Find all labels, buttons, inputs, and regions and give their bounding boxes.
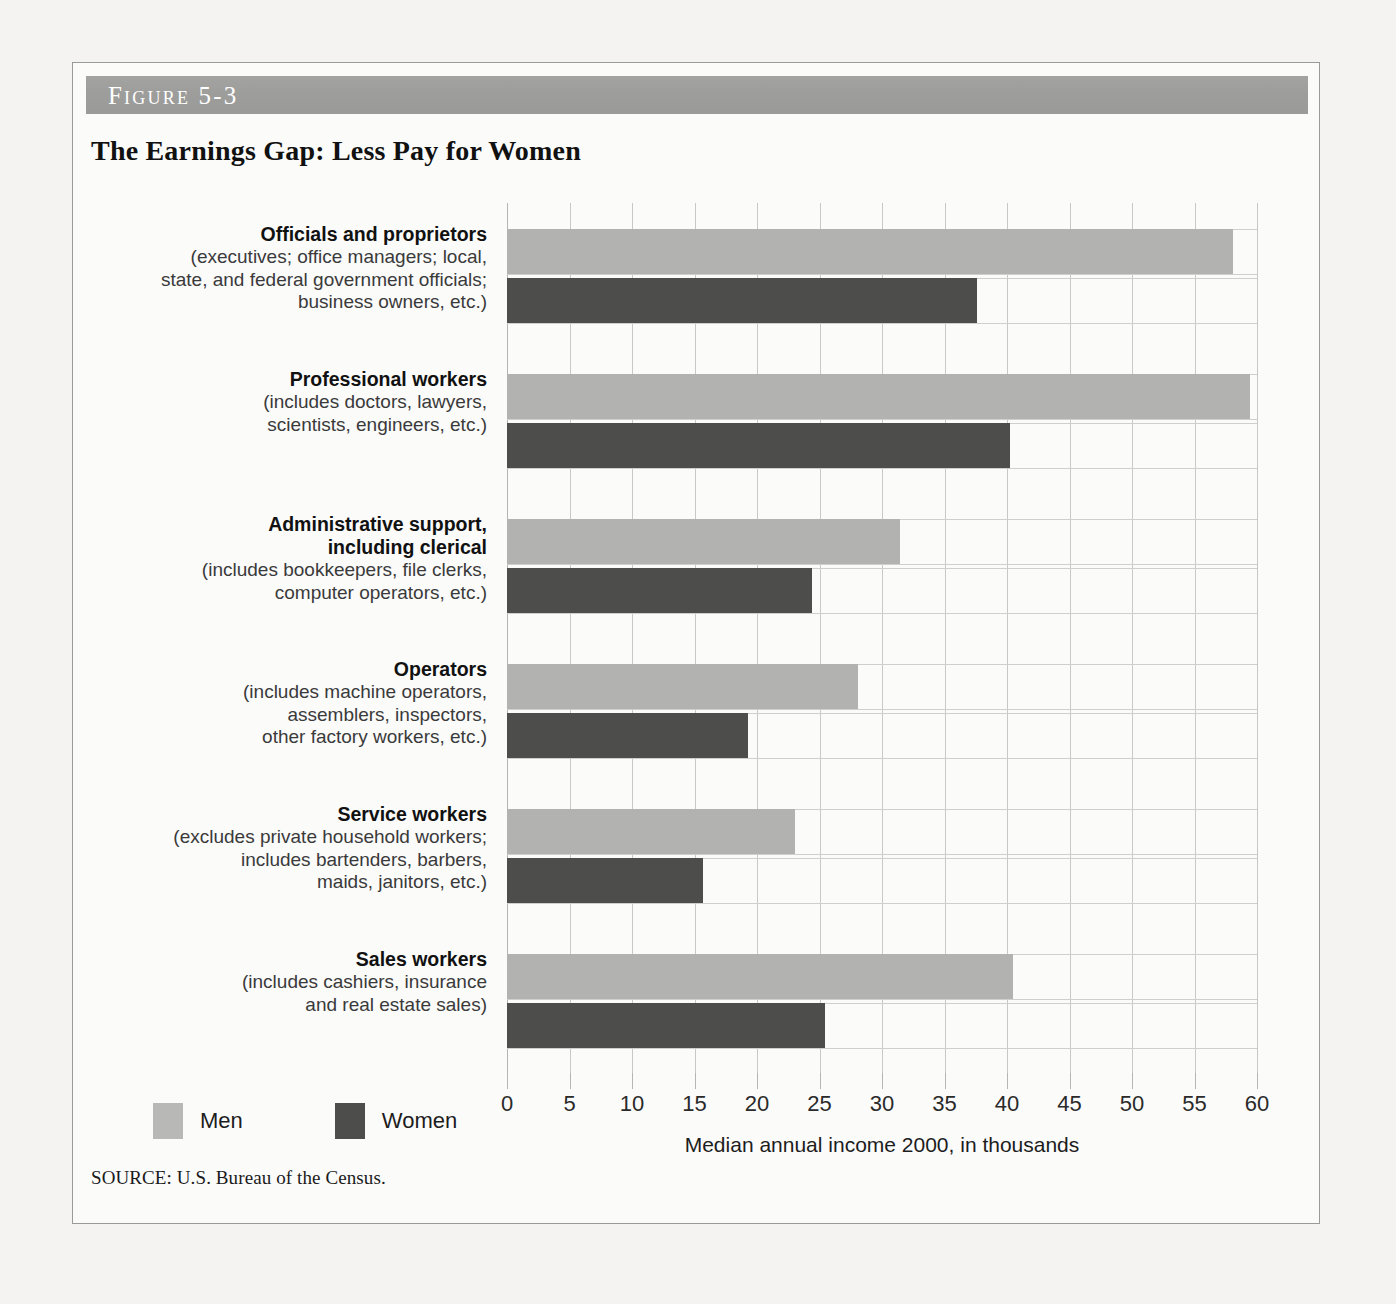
category-description: (includes doctors, lawyers, scientists, … [67, 391, 487, 437]
bar-women [507, 568, 812, 613]
axis-tick [1007, 1073, 1008, 1089]
axis-tick-label: 40 [985, 1091, 1029, 1117]
category-label: Service workers(excludes private househo… [67, 803, 487, 895]
gridline-vertical [1195, 203, 1196, 1073]
gridline-horizontal [507, 1048, 1257, 1049]
axis-tick [1070, 1073, 1071, 1089]
bar-women [507, 423, 1010, 468]
source-note: SOURCE: U.S. Bureau of the Census. [91, 1167, 386, 1189]
category-name: Service workers [67, 803, 487, 826]
gridline-vertical [945, 203, 946, 1073]
bar-men [507, 519, 900, 564]
axis-tick [1132, 1073, 1133, 1089]
axis-tick-label: 35 [923, 1091, 967, 1117]
axis-tick-label: 50 [1110, 1091, 1154, 1117]
legend-swatch-men-icon [153, 1103, 183, 1139]
bar-men [507, 809, 795, 854]
category-name: Administrative support, including cleric… [67, 513, 487, 560]
axis-tick-label: 30 [860, 1091, 904, 1117]
gridline-horizontal [507, 564, 1257, 565]
category-label: Officials and proprietors(executives; of… [67, 223, 487, 315]
axis-tick [882, 1073, 883, 1089]
axis-tick [695, 1073, 696, 1089]
gridline-vertical [1132, 203, 1133, 1073]
axis-tick [820, 1073, 821, 1089]
axis-tick-label: 55 [1173, 1091, 1217, 1117]
category-description: (excludes private household workers; inc… [67, 826, 487, 894]
gridline-vertical [1257, 203, 1258, 1073]
category-name: Operators [67, 658, 487, 681]
axis-tick [507, 1073, 508, 1089]
axis-tick-label: 60 [1235, 1091, 1279, 1117]
gridline-horizontal [507, 274, 1257, 275]
gridline-horizontal [507, 323, 1257, 324]
bar-women [507, 1003, 825, 1048]
bar-women [507, 713, 748, 758]
axis-tick-label: 20 [735, 1091, 779, 1117]
axis-tick [632, 1073, 633, 1089]
axis-tick [570, 1073, 571, 1089]
legend-swatch-women-icon [335, 1103, 365, 1139]
bar-men [507, 374, 1250, 419]
axis-tick-label: 15 [673, 1091, 717, 1117]
axis-tick-label: 5 [548, 1091, 592, 1117]
legend: Men Women [153, 1103, 527, 1139]
gridline-horizontal [507, 758, 1257, 759]
legend-label-men: Men [200, 1108, 243, 1134]
category-label: Sales workers(includes cashiers, insuran… [67, 948, 487, 1017]
plot-area: 051015202530354045505560Median annual in… [507, 203, 1257, 1073]
legend-item-men: Men [153, 1103, 243, 1139]
category-name: Professional workers [67, 368, 487, 391]
bar-women [507, 858, 703, 903]
axis-tick-label: 25 [798, 1091, 842, 1117]
axis-tick-label: 10 [610, 1091, 654, 1117]
gridline-vertical [695, 203, 696, 1073]
gridline-vertical [820, 203, 821, 1073]
gridline-vertical [632, 203, 633, 1073]
axis-zero-line [507, 203, 508, 1073]
gridline-horizontal [507, 468, 1257, 469]
axis-tick [1257, 1073, 1258, 1089]
category-description: (includes machine operators, assemblers,… [67, 681, 487, 749]
figure-container: Figure 5-3 The Earnings Gap: Less Pay fo… [72, 62, 1320, 1224]
gridline-vertical [1007, 203, 1008, 1073]
bar-women [507, 278, 977, 323]
gridline-horizontal [507, 999, 1257, 1000]
gridline-horizontal [507, 613, 1257, 614]
gridline-vertical [570, 203, 571, 1073]
category-description: (executives; office managers; local, sta… [67, 246, 487, 314]
category-description: (includes cashiers, insurance and real e… [67, 971, 487, 1017]
bar-men [507, 229, 1233, 274]
category-name: Officials and proprietors [67, 223, 487, 246]
legend-item-women: Women [335, 1103, 457, 1139]
category-label: Professional workers(includes doctors, l… [67, 368, 487, 437]
gridline-vertical [1070, 203, 1071, 1073]
category-description: (includes bookkeepers, file clerks, comp… [67, 559, 487, 605]
gridline-horizontal [507, 903, 1257, 904]
x-axis-title: Median annual income 2000, in thousands [507, 1133, 1257, 1157]
gridline-horizontal [507, 709, 1257, 710]
category-label: Administrative support, including cleric… [67, 513, 487, 605]
gridline-vertical [882, 203, 883, 1073]
axis-tick [945, 1073, 946, 1089]
gridline-horizontal [507, 854, 1257, 855]
page-background: Figure 5-3 The Earnings Gap: Less Pay fo… [0, 0, 1396, 1304]
plot-wrapper: 051015202530354045505560Median annual in… [73, 63, 1321, 1225]
axis-tick-label: 45 [1048, 1091, 1092, 1117]
bar-men [507, 664, 858, 709]
category-label: Operators(includes machine operators, as… [67, 658, 487, 750]
gridline-vertical [757, 203, 758, 1073]
legend-label-women: Women [382, 1108, 457, 1134]
category-name: Sales workers [67, 948, 487, 971]
bar-men [507, 954, 1013, 999]
axis-tick [1195, 1073, 1196, 1089]
gridline-horizontal [507, 419, 1257, 420]
axis-tick [757, 1073, 758, 1089]
